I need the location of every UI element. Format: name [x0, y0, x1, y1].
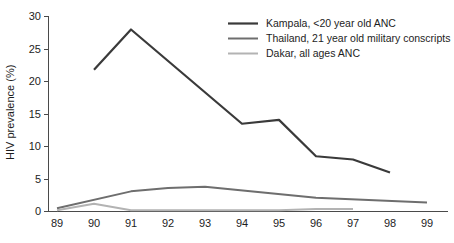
x-tick-label-98: 98	[384, 217, 396, 229]
legend-entry-2: Dakar, all ages ANC	[228, 47, 360, 59]
x-tick-label-90: 90	[88, 217, 100, 229]
series-line-1	[57, 187, 427, 208]
legend-entry-0: Kampala, <20 year old ANC	[228, 17, 396, 29]
y-tick-label-5: 5	[35, 173, 41, 185]
legend-label-1: Thailand, 21 year old military conscript…	[266, 32, 450, 44]
legend-entry-1: Thailand, 21 year old military conscript…	[228, 32, 450, 44]
legend-label-2: Dakar, all ages ANC	[266, 47, 360, 59]
chart-legend: Kampala, <20 year old ANC Thailand, 21 y…	[228, 17, 450, 59]
x-tick-label-91: 91	[125, 217, 137, 229]
y-tick-label-30: 30	[29, 10, 41, 22]
chart-container: HIV prevalence (%) 30 25 20 15 10 5 0 89…	[0, 0, 454, 243]
y-tick-label-15: 15	[29, 108, 41, 120]
x-tick-label-96: 96	[310, 217, 322, 229]
series-layer	[57, 30, 427, 211]
x-tick-label-94: 94	[236, 217, 248, 229]
y-tick-label-10: 10	[29, 140, 41, 152]
legend-label-0: Kampala, <20 year old ANC	[266, 17, 396, 29]
y-axis-ticks: 30 25 20 15 10 5 0	[29, 10, 49, 217]
x-tick-label-89: 89	[51, 217, 63, 229]
y-axis-title: HIV prevalence (%)	[4, 65, 16, 160]
y-tick-label-25: 25	[29, 43, 41, 55]
line-chart: HIV prevalence (%) 30 25 20 15 10 5 0 89…	[0, 0, 454, 243]
y-tick-label-0: 0	[35, 205, 41, 217]
x-tick-label-95: 95	[273, 217, 285, 229]
series-line-2	[57, 204, 353, 211]
x-tick-label-99: 99	[421, 217, 433, 229]
x-axis-ticks: 89 90 91 92 93 94 95 96 97 98 99	[51, 217, 433, 229]
x-tick-label-92: 92	[162, 217, 174, 229]
x-tick-label-93: 93	[199, 217, 211, 229]
y-tick-label-20: 20	[29, 75, 41, 87]
x-tick-label-97: 97	[347, 217, 359, 229]
